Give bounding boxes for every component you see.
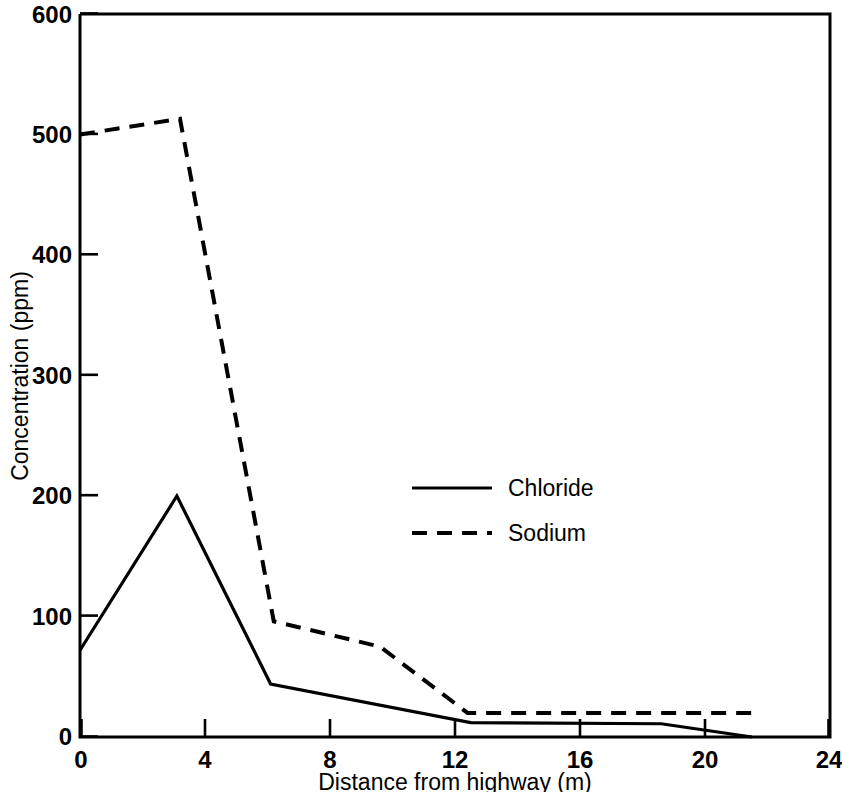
x-tick-label-24: 24 xyxy=(816,746,842,773)
chart-figure: 600 500 400 300 200 100 0 0 4 8 12 16 20 xyxy=(0,0,842,792)
line-chart: 600 500 400 300 200 100 0 0 4 8 12 16 20 xyxy=(0,0,842,792)
x-tick-label-20: 20 xyxy=(692,746,719,773)
y-tick-label-0: 0 xyxy=(59,723,72,750)
x-tick-label-0: 0 xyxy=(74,746,87,773)
legend-label-sodium: Sodium xyxy=(508,520,586,546)
x-axis-title: Distance from highway (m) xyxy=(318,769,592,792)
y-tick-label-600: 600 xyxy=(32,1,72,28)
legend-label-chloride: Chloride xyxy=(508,475,594,501)
y-tick-label-400: 400 xyxy=(32,241,72,268)
y-axis-tick-labels: 600 500 400 300 200 100 0 xyxy=(32,1,72,750)
y-axis-title: Concentration (ppm) xyxy=(7,271,33,481)
y-tick-label-200: 200 xyxy=(32,482,72,509)
series-line-sodium xyxy=(80,119,752,713)
y-tick-label-100: 100 xyxy=(32,603,72,630)
chart-legend: Chloride Sodium xyxy=(412,475,594,546)
x-axis-ticks xyxy=(82,719,829,737)
plot-frame xyxy=(80,14,830,737)
y-tick-label-300: 300 xyxy=(32,362,72,389)
y-tick-label-500: 500 xyxy=(32,121,72,148)
x-tick-label-4: 4 xyxy=(198,746,212,773)
